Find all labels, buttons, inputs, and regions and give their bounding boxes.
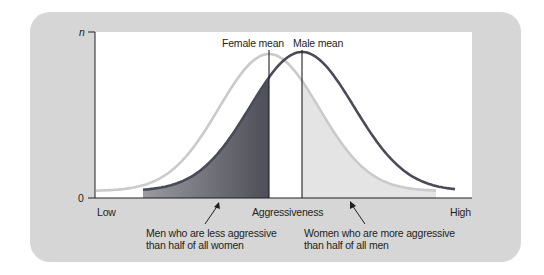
female-mean-label: Female mean [222,37,284,49]
x-axis-title: Aggressiveness [252,206,323,218]
distribution-chart: n 0 Low High Aggressiveness Female mean … [0,0,544,275]
men-annotation-line1: Men who are less aggressive [146,227,277,239]
male-mean-label: Male mean [293,37,344,49]
arrow-women-annotation [350,201,365,224]
plot-area [95,32,472,198]
women-annotation-line2: than half of all men [304,239,389,251]
y-top-label: n [79,26,85,38]
y-zero-label: 0 [78,192,84,204]
women-annotation-line1: Women who are more aggressive [304,227,455,239]
x-high-label: High [450,206,471,218]
men-annotation-line2: than half of all women [146,239,244,251]
x-low-label: Low [97,206,116,218]
arrow-men-annotation [205,202,220,224]
